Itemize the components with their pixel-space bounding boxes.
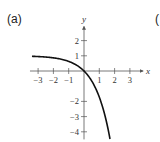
x-tick-label: −2 — [49, 75, 58, 85]
y-tick-label: −2 — [70, 96, 79, 106]
x-tick-label: 2 — [112, 75, 116, 85]
function-graph: −3−2−1123 21−2−3−4 x y — [0, 0, 160, 142]
y-axis-label: y — [81, 14, 86, 24]
x-tick-label: −1 — [64, 75, 73, 85]
y-tick-label: 2 — [75, 36, 79, 46]
y-tick-label: −4 — [70, 127, 80, 137]
x-tick-label: −3 — [34, 75, 43, 85]
y-tick-label: −3 — [70, 112, 79, 122]
x-axis-label: x — [145, 66, 150, 76]
x-tick-label: 1 — [97, 75, 101, 85]
y-ticks: 21−2−3−4 — [70, 36, 87, 137]
x-tick-label: 3 — [128, 75, 132, 85]
y-tick-label: 1 — [75, 51, 79, 61]
